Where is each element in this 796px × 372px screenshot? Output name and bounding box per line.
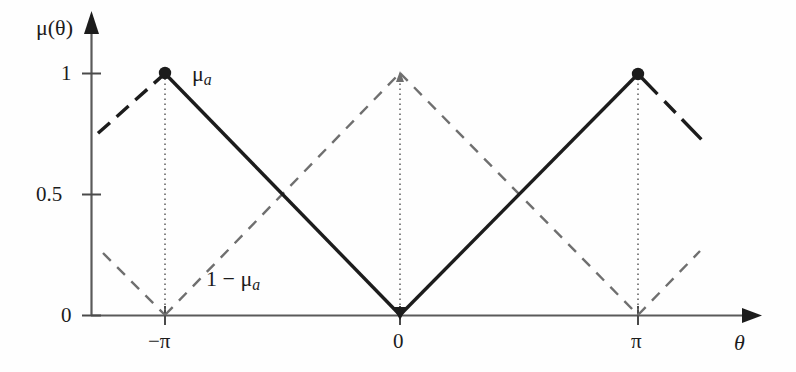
y-tick-label-0-5: 0.5 xyxy=(36,184,62,205)
marker-peak-left xyxy=(159,67,171,79)
curve-label-one-minus-mu-a-base: 1 − μ xyxy=(206,266,252,291)
x-axis-title: θ xyxy=(734,332,745,354)
y-axis-title: μ(θ) xyxy=(36,17,73,39)
marker-peak-right xyxy=(632,68,644,80)
y-axis-arrowhead xyxy=(84,11,99,34)
x-tick-label-pi: π xyxy=(631,331,642,352)
one-minus-mu-a-segment-left xyxy=(103,253,165,315)
curve-label-mu-a: μa xyxy=(192,63,212,88)
x-tick-label-neg-pi: −π xyxy=(148,331,170,352)
curve-one-minus-mu-a xyxy=(103,73,700,315)
one-minus-mu-a-segment-right xyxy=(638,251,700,315)
x-axis-arrowhead xyxy=(742,308,762,323)
chart-plot-area xyxy=(0,0,796,372)
curve-mu-a xyxy=(95,74,703,316)
figure-canvas: μ(θ) θ 1 0.5 0 −π 0 π μa 1 − μa xyxy=(0,0,796,372)
axis-group xyxy=(84,11,762,323)
marker-valley-center xyxy=(393,307,407,320)
curve-label-mu-a-subscript: a xyxy=(204,71,212,88)
curve-label-one-minus-mu-a: 1 − μa xyxy=(206,268,260,293)
mu-a-segment-right-tail xyxy=(638,74,703,141)
y-tick-label-0: 0 xyxy=(61,305,72,326)
mu-a-segment-left-tail xyxy=(95,74,165,137)
curve-label-mu-a-base: μ xyxy=(192,61,204,86)
x-tick-label-zero: 0 xyxy=(393,331,404,352)
curve-label-one-minus-mu-a-subscript: a xyxy=(252,276,260,293)
y-tick-label-1: 1 xyxy=(61,63,72,84)
